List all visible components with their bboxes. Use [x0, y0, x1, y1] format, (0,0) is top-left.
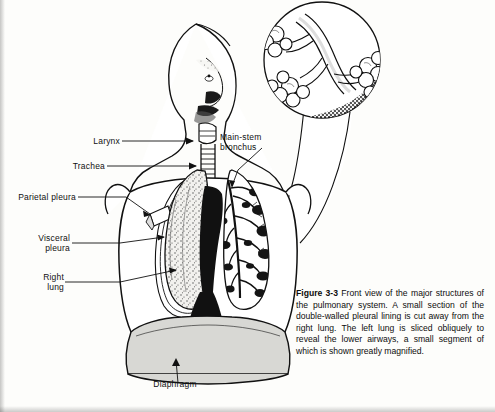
figure-caption: Figure 3-3 Front view of the major struc…: [296, 288, 484, 358]
head-and-neck-outline: [130, 24, 284, 192]
label-larynx: Larynx: [72, 136, 120, 146]
figure-caption-text: Front view of the major structures of th…: [296, 288, 484, 356]
label-main-stem-bronchus: Main-stem bronchus: [220, 132, 292, 152]
label-parietal-pleura: Parietal pleura: [6, 192, 76, 202]
diaphragm: [126, 316, 289, 384]
figure-page: Larynx Trachea Parietal pleura Visceral …: [0, 0, 495, 412]
figure-number: Figure 3-3: [296, 288, 338, 298]
label-trachea: Trachea: [57, 161, 105, 171]
label-visceral-pleura: Visceral pleura: [14, 233, 70, 253]
label-diaphragm: Diaphragm: [140, 379, 210, 389]
label-right-lung: Right lung: [22, 272, 64, 292]
